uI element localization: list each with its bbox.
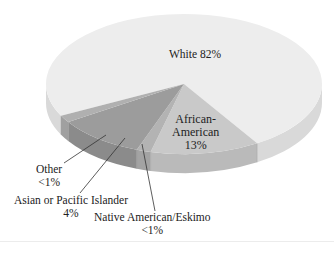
label-white-text: White 82% (169, 48, 221, 60)
baseline-rule (0, 241, 334, 242)
label-white: White 82% (169, 48, 221, 61)
label-other: Other <1% (36, 163, 62, 189)
label-asian-name: Asian or Pacific Islander (14, 194, 128, 207)
label-native-pct: <1% (94, 224, 211, 237)
label-african-american-pct: 13% (172, 139, 219, 152)
label-african-american: African- American 13% (172, 113, 219, 152)
label-native-name: Native American/Eskimo (94, 211, 211, 224)
label-other-name: Other (36, 163, 62, 176)
label-native: Native American/Eskimo <1% (94, 211, 211, 237)
label-other-pct: <1% (36, 176, 62, 189)
